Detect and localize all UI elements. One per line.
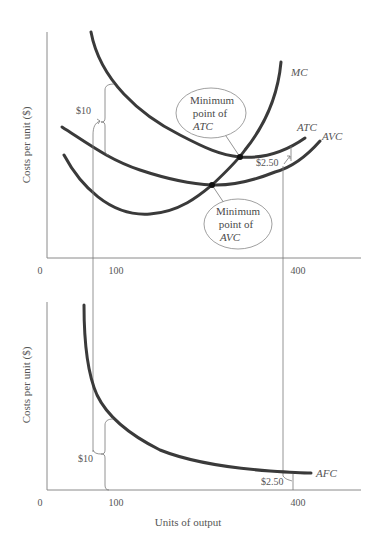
top-y-axis-title: Costs per unit ($) <box>20 106 33 183</box>
avc-curve <box>62 127 320 185</box>
top-x-tick-100: 100 <box>109 265 124 276</box>
bubble-avc-line2: point of <box>219 218 254 230</box>
top-x-tick-400: 400 <box>291 265 306 276</box>
bottom-chart: Costs per unit ($) 0 100 400 Units of ou… <box>20 302 361 528</box>
brace-10-top <box>101 84 114 155</box>
bottom-x-tick-400: 400 <box>291 497 306 508</box>
bubble-avc-line3: AVC <box>219 231 241 243</box>
bottom-x-tick-100: 100 <box>109 497 124 508</box>
mc-label: MC <box>290 66 308 78</box>
guide-line-100 <box>93 119 100 452</box>
bubble-avc-line1: Minimum <box>216 205 260 217</box>
brace-250-bottom <box>283 474 293 490</box>
atc-label: ATC <box>296 121 317 133</box>
avc-label: AVC <box>321 130 343 142</box>
bubble-atc-line3: ATC <box>192 120 213 132</box>
gap-250-label: $2.50 <box>256 157 279 168</box>
afc-label: AFC <box>315 467 337 479</box>
value-10-label: $10 <box>78 453 93 464</box>
value-250-label: $2.50 <box>261 476 284 487</box>
min-atc-point <box>237 154 243 160</box>
bottom-y-axis-title: Costs per unit ($) <box>20 346 33 423</box>
mc-curve <box>64 62 281 214</box>
bubble-avc-pointer <box>212 185 224 203</box>
curl-10-bottom <box>93 450 101 454</box>
top-chart: Costs per unit ($) 0 100 400 Minimum poi… <box>20 32 361 276</box>
min-avc-point <box>209 182 215 188</box>
arrow-250-top <box>284 156 290 164</box>
top-x-tick-0: 0 <box>38 265 43 276</box>
afc-curve <box>84 305 311 473</box>
bottom-x-tick-0: 0 <box>38 497 43 508</box>
bubble-atc-line1: Minimum <box>190 94 234 106</box>
cost-curves-figure: Costs per unit ($) 0 100 400 Minimum poi… <box>0 0 384 545</box>
bottom-x-axis-title: Units of output <box>155 516 222 528</box>
gap-10-label: $10 <box>76 105 91 116</box>
bubble-atc-line2: point of <box>193 107 228 119</box>
brace-10-bottom <box>101 419 113 490</box>
